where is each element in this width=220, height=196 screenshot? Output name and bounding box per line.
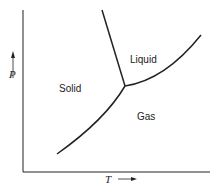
y-axis-label: P <box>9 69 16 80</box>
region-label-solid: Solid <box>59 84 81 94</box>
region-label-gas: Gas <box>137 112 155 122</box>
phase-diagram: P T Solid Liquid Gas <box>0 0 220 196</box>
phase-diagram-plot <box>0 0 220 196</box>
p-arrowhead-icon <box>11 51 15 58</box>
x-axis-label: T <box>105 174 111 185</box>
region-label-liquid: Liquid <box>130 55 157 65</box>
t-arrowhead-icon <box>131 177 137 181</box>
melting-curve <box>102 10 125 86</box>
sublimation-curve <box>57 86 125 154</box>
